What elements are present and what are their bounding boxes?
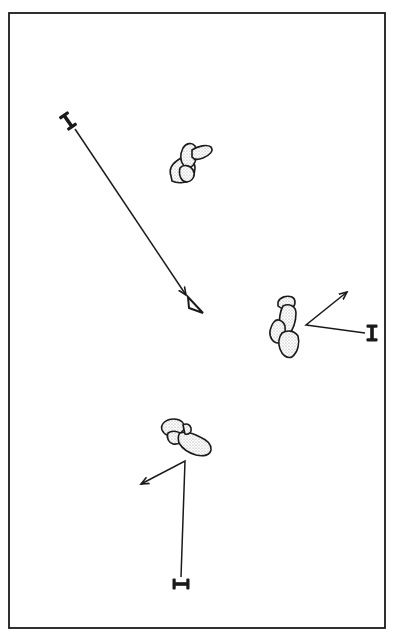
arrow-right — [306, 292, 365, 333]
arrow-line — [306, 292, 365, 333]
triangle-marker-icon — [188, 297, 203, 313]
label-top-left — [59, 111, 78, 131]
stone-cluster-top — [170, 144, 212, 183]
arrow-line — [75, 129, 186, 295]
diagram-svg: I I I — [0, 0, 396, 637]
arrow-top-left — [75, 129, 186, 295]
label-bottom — [173, 579, 190, 590]
arrow-bottom — [141, 461, 185, 577]
stone-cluster-right — [270, 296, 299, 357]
arrow-line — [141, 461, 185, 577]
diagram-canvas: I I I — [0, 0, 396, 637]
stone-cluster-bottom — [162, 419, 212, 456]
label-right — [367, 325, 378, 342]
frame-border — [9, 13, 385, 628]
